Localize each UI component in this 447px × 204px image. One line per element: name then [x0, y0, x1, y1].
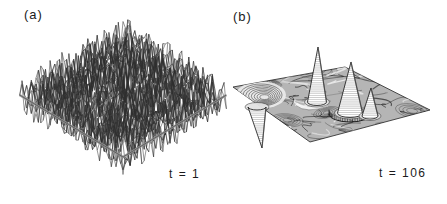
panel-b-time-label: t = 106 — [379, 166, 427, 180]
panel-a-surface — [20, 20, 227, 175]
panel-a-label: (a) — [24, 7, 43, 22]
figure-panel: (a) (b) t = 1 t = 106 — [0, 0, 447, 204]
panel-a-time-label: t = 1 — [169, 167, 200, 181]
panel-b-surface — [215, 47, 447, 151]
down-spike — [245, 103, 271, 150]
panel-b-label: (b) — [233, 9, 252, 24]
